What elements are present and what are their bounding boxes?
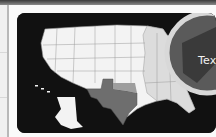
magnifier-label: Texas [198, 54, 216, 67]
us-map [17, 13, 216, 133]
us-map-card[interactable]: Texas [17, 13, 216, 133]
